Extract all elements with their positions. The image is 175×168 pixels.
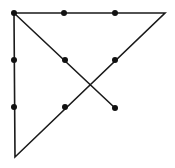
connecting-path <box>14 13 165 157</box>
dot-5 <box>62 57 68 63</box>
dot-3 <box>112 10 118 16</box>
dot-8 <box>62 104 68 110</box>
dot-4 <box>11 57 17 63</box>
nine-dots-diagram <box>0 0 175 168</box>
dot-2 <box>61 10 67 16</box>
dot-7 <box>11 104 17 110</box>
dot-9 <box>112 105 118 111</box>
dot-1 <box>11 10 17 16</box>
dot-6 <box>112 57 118 63</box>
